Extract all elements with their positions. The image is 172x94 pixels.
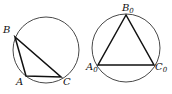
equilateral-triangle-inscribed: B0A0C0 (85, 2, 168, 82)
vertex-label-b: B (2, 24, 10, 35)
vertex-label-c0: C0 (155, 61, 168, 74)
vertex-label-a0: A0 (85, 61, 98, 74)
vertex-label-a: A (15, 76, 23, 87)
triangle (98, 15, 154, 65)
geometry-figure: BACB0A0C0 (0, 0, 172, 94)
vertex-subscript: 0 (163, 66, 168, 74)
vertex-subscript: 0 (93, 66, 98, 74)
triangle (15, 37, 61, 77)
scalene-triangle-inscribed: BAC (2, 17, 79, 87)
vertex-label-c: C (63, 76, 71, 87)
circumscribed-circle (13, 17, 79, 83)
vertex-subscript: 0 (129, 7, 134, 15)
circumscribed-circle (92, 14, 160, 82)
vertex-label-b0: B0 (121, 2, 134, 15)
